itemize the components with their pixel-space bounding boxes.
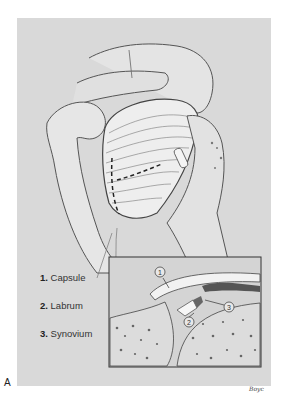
legend-label: Labrum bbox=[51, 300, 83, 311]
artist-signature: Boyc bbox=[249, 385, 264, 392]
legend-item-capsule: 1. Capsule bbox=[40, 272, 85, 283]
panel-label: A bbox=[4, 377, 11, 388]
legend-label: Capsule bbox=[51, 272, 86, 283]
legend-item-synovium: 3. Synovium bbox=[40, 328, 92, 339]
legend-number: 3. bbox=[40, 328, 48, 339]
legend-item-labrum: 2. Labrum bbox=[40, 300, 83, 311]
callout-3: 3 bbox=[227, 304, 231, 311]
legend-number: 2. bbox=[40, 300, 48, 311]
legend-number: 1. bbox=[40, 272, 48, 283]
callout-1: 1 bbox=[158, 269, 162, 276]
legend-label: Synovium bbox=[51, 328, 93, 339]
callout-2: 2 bbox=[187, 319, 191, 326]
